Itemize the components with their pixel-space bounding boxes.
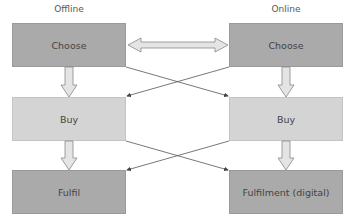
down-arrow-icon xyxy=(278,67,294,170)
cross-arrows-buy-fulfil xyxy=(126,141,229,170)
cross-arrows-choose-buy xyxy=(126,67,229,96)
double-arrow-icon xyxy=(128,38,228,52)
down-arrow-icon xyxy=(61,67,77,170)
connectors xyxy=(0,0,351,220)
